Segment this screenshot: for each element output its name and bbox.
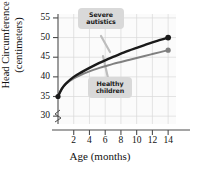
x-axis-tick-label: 14 <box>158 135 178 145</box>
y-axis-title-line2: (centimeters) <box>13 0 26 106</box>
callout-severe-line2: autistics <box>82 18 120 25</box>
y-axis-title-line1: Head Circumference <box>0 0 13 106</box>
y-axis-title: Head Circumference (centimeters) <box>0 0 34 106</box>
marker-healthy-children <box>166 48 171 53</box>
y-axis-ticks <box>53 18 58 116</box>
chart-container: 303540455055 2468101214 Head Circumferen… <box>0 0 200 170</box>
x-axis-title: Age (months) <box>0 150 200 162</box>
y-axis-tick-label: 30 <box>30 110 50 120</box>
callout-healthy-line1: Healthy <box>92 80 128 87</box>
callout-healthy-children: Healthy children <box>88 77 132 98</box>
callout-severe-line1: Severe <box>82 11 120 18</box>
marker-severe-autistics <box>165 35 171 41</box>
plot-background <box>58 14 176 124</box>
callout-severe-autistics: Severe autistics <box>78 8 124 29</box>
marker-origin <box>55 94 60 99</box>
callout-healthy-line2: children <box>92 87 128 94</box>
